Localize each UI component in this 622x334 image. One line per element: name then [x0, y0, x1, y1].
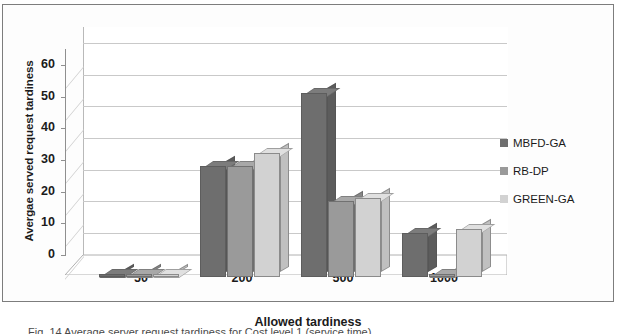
legend-label: RB-DP: [513, 165, 549, 177]
y-axis-tick: [61, 192, 66, 193]
bar-front-face: [355, 198, 381, 277]
bar: [153, 274, 179, 277]
y-axis-tick-label: 40: [23, 121, 55, 134]
y-axis-tick: [61, 255, 66, 256]
legend-item: RB-DP: [500, 165, 574, 177]
y-axis-tick: [61, 128, 66, 129]
y-axis-tick-label: 10: [23, 216, 55, 229]
bar: [328, 201, 354, 277]
gridline: [83, 170, 507, 171]
bar-side-face: [280, 143, 289, 272]
y-axis-tick-label: 20: [23, 185, 55, 198]
bar-front-face: [429, 274, 455, 277]
y-axis-tick: [61, 97, 66, 98]
bar-front-face: [328, 201, 354, 277]
y-axis-tick: [61, 65, 66, 66]
bar: [402, 233, 428, 277]
bar: [227, 166, 253, 277]
bar-front-face: [227, 166, 253, 277]
bar: [200, 166, 226, 277]
y-axis-tick: [61, 223, 66, 224]
bar: [456, 229, 482, 277]
bar-front-face: [254, 153, 280, 277]
bar-front-face: [200, 166, 226, 277]
bar: [429, 274, 455, 277]
legend-label: MBFD-GA: [513, 137, 566, 149]
chart-legend: MBFD-GARB-DPGREEN-GA: [500, 137, 574, 221]
legend-label: GREEN-GA: [513, 193, 574, 205]
figure-caption: Fig. 14 Average server request tardiness…: [28, 326, 608, 334]
bar: [254, 153, 280, 277]
bar-front-face: [456, 229, 482, 277]
chart-back-wall: [83, 27, 508, 255]
bar-front-face: [301, 93, 327, 277]
y-axis-tick: [61, 160, 66, 161]
gridline: [83, 43, 507, 44]
bar-front-face: [402, 233, 428, 277]
legend-swatch-icon: [500, 195, 508, 203]
gridline: [83, 233, 507, 234]
bar: [99, 274, 125, 277]
gridline: [83, 106, 507, 107]
gridline: [83, 138, 507, 139]
bar: [301, 93, 327, 277]
chart-frame: Avergae served request tardiness 5020050…: [2, 4, 614, 302]
gridline: [83, 75, 507, 76]
legend-item: MBFD-GA: [500, 137, 574, 149]
legend-swatch-icon: [500, 167, 508, 175]
legend-swatch-icon: [500, 139, 508, 147]
bar-front-face: [99, 274, 125, 277]
bar-front-face: [126, 274, 152, 277]
plot-area: 502005001000: [65, 27, 525, 275]
y-axis-tick-label: 50: [23, 90, 55, 103]
bar: [355, 198, 381, 277]
bar: [126, 274, 152, 277]
y-axis-tick-label: 60: [23, 58, 55, 71]
y-axis-tick-label: 0: [23, 248, 55, 261]
y-axis-tick-label: 30: [23, 153, 55, 166]
bar-front-face: [153, 274, 179, 277]
legend-item: GREEN-GA: [500, 193, 574, 205]
gridline: [83, 201, 507, 202]
